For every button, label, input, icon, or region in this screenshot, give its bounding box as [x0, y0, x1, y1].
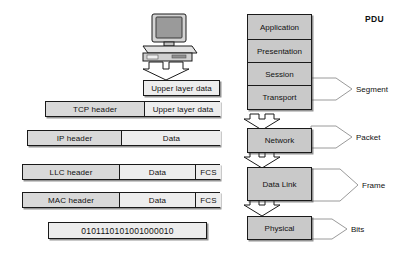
encap-row-tcp-segment: TCP header Upper layer data [45, 101, 220, 117]
encap-row-bit-stream: 0101110101001000010 [48, 222, 207, 239]
pdu-column-title: PDU [365, 14, 384, 24]
encapsulation-diagram: Upper layer data TCP header Upper layer … [0, 0, 419, 257]
pdu-label-segment: Segment [356, 85, 388, 94]
osi-layer-presentation[interactable]: Presentation [248, 39, 311, 62]
computer-workstation-icon [143, 14, 197, 61]
encap-cell-tcp-header: TCP header [46, 102, 144, 116]
encap-cell-upper-layer-data: Upper layer data [144, 81, 219, 95]
pdu-callout-segment-shape [311, 78, 352, 100]
encap-cell-mac-header: MAC header [23, 193, 119, 207]
osi-layer-data-link[interactable]: Data Link [247, 167, 312, 201]
pdu-callout-frame-shape [311, 169, 358, 201]
pdu-callout-packet-shape [311, 126, 352, 148]
osi-layer-application[interactable]: Application [248, 15, 311, 39]
encap-cell-tcp-payload: Upper layer data [144, 102, 221, 116]
osi-layer-transport[interactable]: Transport [248, 85, 311, 109]
encap-row-mac-frame: MAC header Data FCS [22, 192, 220, 208]
osi-arrow-network-to-datalink [244, 152, 280, 168]
encap-cell-llc-fcs: FCS [195, 165, 221, 179]
osi-arrow-datalink-to-physical [244, 200, 280, 216]
pdu-label-bits: Bits [351, 225, 364, 234]
encap-cell-ip-data: Data [121, 131, 221, 145]
pdu-label-packet: Packet [356, 133, 380, 142]
encap-cell-llc-header: LLC header [23, 165, 119, 179]
pdu-callout-bits-shape [311, 219, 347, 239]
encap-row-llc-frame: LLC header Data FCS [22, 164, 220, 180]
encap-row-upper-layer-data: Upper layer data [143, 80, 220, 96]
osi-upper-layer-group: Application Presentation Session Transpo… [247, 14, 312, 110]
encap-cell-llc-data: Data [119, 165, 195, 179]
encap-cell-mac-fcs: FCS [195, 193, 221, 207]
encap-cell-ip-header: IP header [28, 131, 121, 145]
osi-layer-network[interactable]: Network [247, 128, 312, 153]
computer-icon-layer [0, 0, 419, 257]
encap-cell-bit-stream: 0101110101001000010 [49, 223, 206, 238]
osi-layer-session[interactable]: Session [248, 62, 311, 85]
osi-layer-physical[interactable]: Physical [247, 216, 312, 240]
encap-cell-mac-data: Data [119, 193, 195, 207]
encap-row-ip-packet: IP header Data [27, 130, 220, 146]
encapsulation-arrow-from-device [143, 62, 189, 80]
pdu-label-frame: Frame [362, 181, 385, 190]
